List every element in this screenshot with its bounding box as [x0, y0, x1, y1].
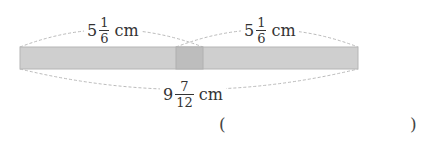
total-length-label: 9 7 12 cm — [160, 80, 226, 109]
answer-close-paren: ) — [410, 114, 417, 134]
left-length-label: 5 1 6 cm — [84, 16, 142, 45]
right-length-label: 5 1 6 cm — [241, 16, 299, 45]
answer-blank[interactable] — [232, 114, 402, 134]
fraction: 1 6 — [256, 16, 266, 45]
overlap-segment — [176, 47, 203, 69]
answer-open-paren: ( — [219, 114, 226, 134]
fraction: 7 12 — [175, 80, 194, 109]
fraction: 1 6 — [99, 16, 109, 45]
